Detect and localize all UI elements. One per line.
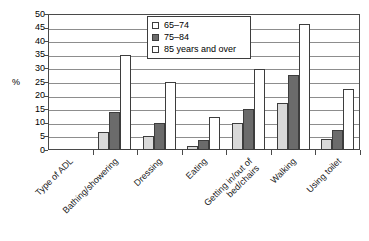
bar (198, 140, 209, 150)
x-axis-label-line: Using toilet (304, 156, 343, 195)
legend-label-85-over: 85 years and over (164, 45, 236, 54)
bar-set (54, 14, 87, 150)
bar (154, 123, 165, 150)
bar-chart: % 50454035302520151050 65–74 75–84 85 ye… (0, 0, 369, 241)
x-axis-label: Walking (269, 156, 298, 185)
legend-swatch-icon-65-74 (152, 22, 159, 29)
bar (109, 112, 120, 150)
x-axis-label: Type of ADL (34, 156, 76, 198)
x-axis-label: Dressing (132, 156, 164, 188)
bar (120, 55, 131, 150)
bar-group (271, 14, 316, 150)
y-tick-label: 10 (20, 118, 45, 127)
y-tick-label: 50 (20, 10, 45, 19)
x-axis-label: Getting in/out ofbed/chairs (202, 156, 261, 215)
bar-set (98, 14, 131, 150)
y-tick-label: 15 (20, 105, 45, 114)
bar (321, 139, 332, 150)
bar-group (315, 14, 360, 150)
bar (232, 123, 243, 150)
bar (143, 136, 154, 150)
y-axis-title: % (12, 78, 20, 87)
y-tick-label: 20 (20, 91, 45, 100)
x-axis-label-line: Eating (184, 156, 209, 181)
x-axis-label: Eating (184, 156, 209, 181)
bar (277, 103, 288, 150)
bar (98, 132, 109, 150)
x-axis-label-line: Dressing (132, 156, 164, 188)
legend-label-65-74: 65–74 (164, 21, 189, 30)
x-axis-labels: Type of ADLBathing/showeringDressingEati… (0, 150, 369, 241)
legend-label-75-84: 75–84 (164, 33, 189, 42)
bar (288, 75, 299, 150)
x-axis-label-line: Walking (269, 156, 298, 185)
legend-swatch-icon-85-over (152, 46, 159, 53)
x-axis-label-line: Type of ADL (34, 156, 76, 198)
chart-legend: 65–74 75–84 85 years and over (147, 16, 251, 59)
x-axis-label: Using toilet (304, 156, 343, 195)
legend-item-85-over: 85 years and over (152, 44, 246, 55)
bar (299, 24, 310, 150)
y-tick-label: 35 (20, 50, 45, 59)
bar-set (277, 14, 310, 150)
bar (343, 89, 354, 150)
bar (165, 82, 176, 150)
bar (332, 130, 343, 150)
legend-item-65-74: 65–74 (152, 20, 246, 31)
y-tick-label: 5 (20, 132, 45, 141)
bar-group (48, 14, 93, 150)
y-tick-label: 25 (20, 78, 45, 87)
y-tick-label: 45 (20, 23, 45, 32)
bar (243, 109, 254, 150)
bar-group (93, 14, 138, 150)
bar (254, 69, 265, 150)
y-tick-label: 30 (20, 64, 45, 73)
bar-set (321, 14, 354, 150)
legend-item-75-84: 75–84 (152, 32, 246, 43)
y-tick-label: 40 (20, 37, 45, 46)
bar (209, 117, 220, 150)
legend-swatch-icon-75-84 (152, 34, 159, 41)
